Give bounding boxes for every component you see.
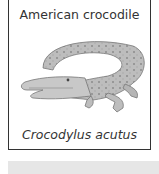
scientific-name: Crocodylus acutus [9,127,150,142]
species-card[interactable]: American crocodile Crocodylus acutus [8,0,151,150]
bottom-bar [8,161,159,174]
common-name: American crocodile [9,7,150,22]
crocodile-illustration-icon [13,38,148,118]
